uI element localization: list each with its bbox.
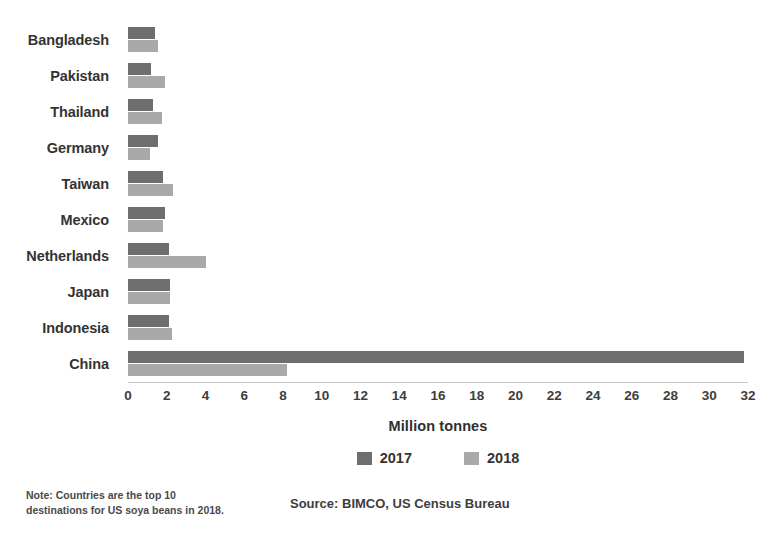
category-rows: BangladeshPakistanThailandGermanyTaiwanM… [0, 22, 783, 382]
bar-2018 [128, 364, 287, 376]
x-axis-title: Million tonnes [128, 418, 748, 434]
category-label: China [0, 357, 118, 372]
x-axis-tick: 20 [508, 388, 523, 403]
legend-label: 2018 [487, 450, 519, 466]
legend-swatch-icon [464, 452, 479, 465]
bar-2018 [128, 292, 170, 304]
category-label: Netherlands [0, 249, 118, 264]
chart-source: Source: BIMCO, US Census Bureau [290, 496, 510, 511]
category-label: Mexico [0, 213, 118, 228]
bar-2018 [128, 220, 163, 232]
x-axis-tick: 16 [430, 388, 445, 403]
bar-2017 [128, 279, 170, 291]
chart-note-line-1: Note: Countries are the top 10 [26, 489, 176, 501]
x-axis-tick: 28 [663, 388, 678, 403]
category-bars [128, 130, 768, 166]
legend-swatch-icon [357, 452, 372, 465]
bar-2017 [128, 27, 155, 39]
chart-category-row: Mexico [0, 202, 783, 238]
category-label: Thailand [0, 105, 118, 120]
chart-category-row: Germany [0, 130, 783, 166]
bar-2018 [128, 184, 173, 196]
x-axis-tick-labels: 02468101214161820222426283032 [0, 388, 783, 410]
chart-category-row: China [0, 346, 783, 382]
category-label: Japan [0, 285, 118, 300]
chart-category-row: Netherlands [0, 238, 783, 274]
soya-bean-exports-bar-chart: BangladeshPakistanThailandGermanyTaiwanM… [0, 0, 783, 547]
chart-note: Note: Countries are the top 10 destinati… [26, 488, 276, 518]
x-axis-line [128, 382, 748, 383]
x-axis-tick: 18 [469, 388, 484, 403]
bar-2018 [128, 40, 158, 52]
chart-category-row: Bangladesh [0, 22, 783, 58]
x-axis-tick: 12 [353, 388, 368, 403]
category-bars [128, 310, 768, 346]
category-label: Taiwan [0, 177, 118, 192]
category-bars [128, 22, 768, 58]
bar-2017 [128, 135, 158, 147]
bar-2017 [128, 207, 165, 219]
x-axis-tick: 26 [624, 388, 639, 403]
category-bars [128, 274, 768, 310]
category-bars [128, 202, 768, 238]
category-bars [128, 238, 768, 274]
category-bars [128, 58, 768, 94]
category-label: Germany [0, 141, 118, 156]
chart-category-row: Thailand [0, 94, 783, 130]
legend-item[interactable]: 2018 [464, 450, 519, 466]
category-label: Indonesia [0, 321, 118, 336]
legend-item[interactable]: 2017 [357, 450, 412, 466]
x-axis-tick: 4 [202, 388, 210, 403]
x-axis-tick: 6 [240, 388, 248, 403]
bar-2018 [128, 328, 172, 340]
legend-label: 2017 [380, 450, 412, 466]
bar-2018 [128, 112, 162, 124]
x-axis-tick: 30 [702, 388, 717, 403]
x-axis-tick: 2 [163, 388, 171, 403]
chart-category-row: Japan [0, 274, 783, 310]
x-axis-tick: 0 [124, 388, 132, 403]
bar-2017 [128, 315, 169, 327]
chart-legend: 20172018 [128, 450, 748, 466]
chart-category-row: Pakistan [0, 58, 783, 94]
x-axis-tick: 32 [740, 388, 755, 403]
category-label: Bangladesh [0, 33, 118, 48]
bar-2018 [128, 148, 150, 160]
category-bars [128, 94, 768, 130]
x-axis-tick: 8 [279, 388, 287, 403]
category-bars [128, 166, 768, 202]
category-bars [128, 346, 768, 382]
bar-2017 [128, 63, 151, 75]
bar-2017 [128, 351, 744, 363]
x-axis-tick: 24 [585, 388, 600, 403]
chart-category-row: Indonesia [0, 310, 783, 346]
chart-category-row: Taiwan [0, 166, 783, 202]
x-axis-tick: 10 [314, 388, 329, 403]
bar-2017 [128, 243, 169, 255]
bar-2017 [128, 171, 163, 183]
bar-2018 [128, 76, 165, 88]
bar-2017 [128, 99, 153, 111]
x-axis-tick: 22 [547, 388, 562, 403]
category-label: Pakistan [0, 69, 118, 84]
bar-2018 [128, 256, 206, 268]
plot-area: BangladeshPakistanThailandGermanyTaiwanM… [0, 22, 783, 382]
chart-note-line-2: destinations for US soya beans in 2018. [26, 504, 224, 516]
x-axis-tick: 14 [392, 388, 407, 403]
